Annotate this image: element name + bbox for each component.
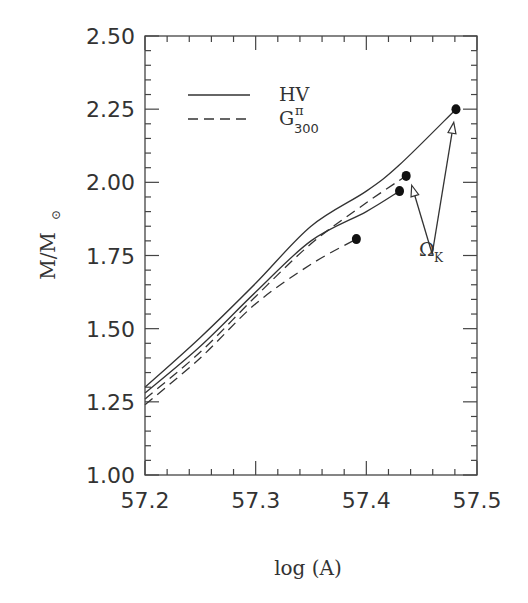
omega-k-subscript: K bbox=[434, 251, 444, 265]
y-tick-label: 2.50 bbox=[86, 24, 135, 49]
endpoint-dot bbox=[395, 186, 404, 196]
legend-label-hv: HV bbox=[279, 83, 310, 105]
y-tick-label: 2.00 bbox=[86, 170, 135, 195]
omega-k-label: Ω bbox=[419, 238, 435, 260]
x-tick-label: 57.4 bbox=[342, 488, 391, 513]
y-tick-label: 1.25 bbox=[86, 390, 135, 415]
y-tick-label: 1.75 bbox=[86, 244, 135, 269]
y-axis-title-sub: ⊙ bbox=[49, 210, 63, 220]
x-tick-label: 57.3 bbox=[231, 488, 280, 513]
dashed-curve bbox=[145, 176, 406, 399]
endpoint-dot bbox=[451, 104, 460, 114]
curves bbox=[145, 109, 456, 405]
solid-curve bbox=[145, 191, 400, 393]
y-axis-title: M/M ⊙ bbox=[36, 210, 63, 280]
x-tick-label: 57.2 bbox=[121, 488, 170, 513]
y-tick-label: 2.25 bbox=[86, 97, 135, 122]
legend-label-g300: G bbox=[279, 107, 294, 129]
mass-vs-log-a-chart: 57.257.357.457.51.001.251.501.752.002.25… bbox=[0, 0, 528, 603]
dashed-curve bbox=[145, 239, 356, 405]
legend: HV G π 300 bbox=[188, 83, 319, 136]
y-axis-title-main: M/M bbox=[36, 232, 60, 280]
endpoint-markers bbox=[352, 104, 461, 244]
arrow-head-icon bbox=[448, 122, 456, 134]
y-tick-label: 1.50 bbox=[86, 317, 135, 342]
legend-label-g300-sup: π bbox=[295, 103, 304, 118]
arrow-line bbox=[432, 133, 452, 254]
arrow-head-icon bbox=[411, 185, 419, 197]
solid-curve bbox=[145, 109, 456, 387]
endpoint-dot bbox=[352, 234, 361, 244]
annotation-arrows bbox=[411, 122, 456, 254]
legend-label-g300-sub: 300 bbox=[294, 121, 319, 136]
endpoint-dot bbox=[402, 171, 411, 181]
x-tick-label: 57.5 bbox=[453, 488, 502, 513]
y-tick-label: 1.00 bbox=[86, 463, 135, 488]
x-axis-title: log (A) bbox=[274, 556, 342, 580]
